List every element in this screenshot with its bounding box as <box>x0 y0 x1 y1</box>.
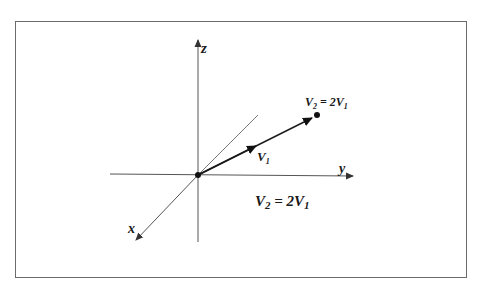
y-axis <box>110 174 353 176</box>
equation-label: V2 = 2V1 <box>255 193 310 211</box>
origin-point <box>195 172 201 178</box>
vector-diagram: z y x V1 V2 = 2V1 V2 = 2V1 <box>0 0 483 296</box>
v2-point-label: V2 = 2V1 <box>305 95 348 111</box>
z-axis-label: z <box>200 40 207 56</box>
v2-endpoint <box>314 112 320 118</box>
y-axis-label: y <box>337 161 346 176</box>
v1-label: V1 <box>257 149 270 166</box>
vector-v1 <box>198 146 256 175</box>
x-axis-label: x <box>127 221 135 236</box>
